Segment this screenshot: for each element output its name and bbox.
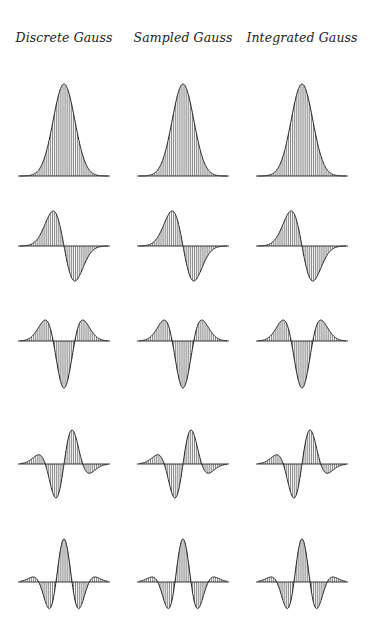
kernel-plot-order-0-col-2: [137, 84, 229, 176]
kernel-plot-order-4-col-2: [137, 539, 229, 609]
kernel-plot-order-2-col-3: [256, 320, 348, 388]
kernel-plot-order-3-col-1: [18, 430, 110, 498]
kernel-plot-order-1-col-3: [256, 211, 348, 281]
kernel-plot-order-0-col-1: [18, 84, 110, 176]
kernel-plot-grid: [0, 0, 367, 637]
kernel-plot-order-0-col-3: [256, 84, 348, 176]
kernel-plot-order-3-col-2: [137, 430, 229, 498]
kernel-plot-order-1-col-1: [18, 211, 110, 281]
kernel-plot-order-2-col-2: [137, 320, 229, 388]
kernel-plot-order-4-col-3: [256, 539, 348, 609]
kernel-plot-order-3-col-3: [256, 430, 348, 498]
kernel-plot-order-1-col-2: [137, 211, 229, 281]
kernel-plot-order-4-col-1: [18, 539, 110, 609]
kernel-plot-order-2-col-1: [18, 320, 110, 388]
